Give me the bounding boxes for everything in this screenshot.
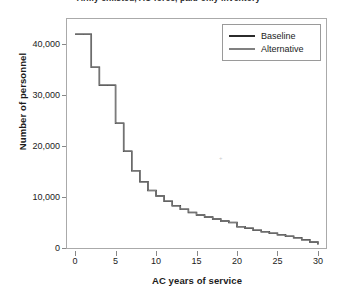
series-line-alternative [75,34,318,244]
x-tick-label: 5 [96,256,136,266]
legend-item-baseline[interactable]: Baseline [229,29,314,42]
chart-figure: Army enlisted, AC force, paid-only inven… [0,0,337,297]
legend-swatch-icon [229,48,255,50]
x-tick-label: 0 [55,256,95,266]
stray-mark: + [219,155,223,161]
y-tick-label: 30,000 [6,90,60,100]
y-axis-tick [62,146,66,147]
y-axis-tick-labels: 010,00020,00030,00040,000 [0,0,60,297]
x-axis-tick [75,251,76,256]
legend-label: Baseline [261,31,296,41]
y-tick-label: 0 [6,243,60,253]
x-axis-tick [277,251,278,256]
y-axis-tick [62,95,66,96]
x-tick-label: 25 [257,256,297,266]
y-axis-tick [62,44,66,45]
y-tick-label: 10,000 [6,192,60,202]
y-axis-tick [62,248,66,249]
legend-swatch-icon [229,35,255,37]
x-axis-tick [197,251,198,256]
x-axis-tick [156,251,157,256]
legend-label: Alternative [261,44,304,54]
chart-legend: BaselineAlternative [222,24,321,61]
x-tick-label: 10 [136,256,176,266]
y-tick-label: 40,000 [6,39,60,49]
x-axis-tick [318,251,319,256]
x-axis-tick [237,251,238,256]
y-axis-tick [62,197,66,198]
x-axis-title: AC years of service [66,275,328,286]
x-axis-tick [116,251,117,256]
x-tick-label: 30 [298,256,337,266]
x-tick-label: 20 [217,256,257,266]
legend-item-alternative[interactable]: Alternative [229,42,314,55]
y-tick-label: 20,000 [6,141,60,151]
x-tick-label: 15 [177,256,217,266]
